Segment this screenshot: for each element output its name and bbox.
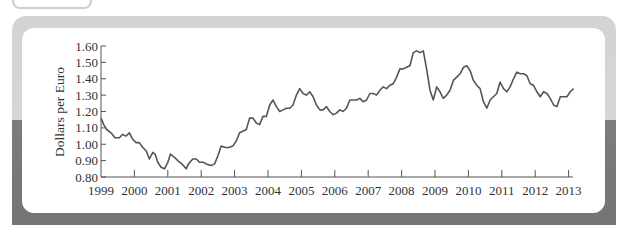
y-tick-label: 1.30 — [75, 88, 98, 103]
y-tick-label: 1.00 — [75, 137, 98, 152]
x-tick-label: 2009 — [422, 183, 448, 198]
y-tick-label: 1.20 — [75, 104, 98, 119]
x-tick-label: 2001 — [155, 183, 181, 198]
x-tick-label: 2004 — [255, 183, 282, 198]
x-tick-label: 2000 — [121, 183, 147, 198]
y-tick-label: 1.60 — [75, 39, 98, 54]
x-tick-label: 2005 — [288, 183, 314, 198]
series-line-dollars-per-euro — [101, 51, 574, 169]
x-tick-label: 2007 — [355, 183, 382, 198]
y-tick-label: 1.10 — [75, 120, 98, 135]
x-tick-label: 2008 — [389, 183, 415, 198]
y-tick-label: 1.50 — [75, 55, 98, 70]
x-tick-label: 2010 — [455, 183, 481, 198]
y-axis-title: Dollars per Euro — [52, 67, 67, 157]
y-tick-label: 0.90 — [75, 153, 98, 168]
x-tick-label: 2012 — [522, 183, 548, 198]
line-chart: Dollars per Euro 0.800.901.001.101.201.3… — [0, 0, 627, 235]
x-tick-label: 2013 — [556, 183, 582, 198]
x-tick-label: 2002 — [188, 183, 214, 198]
x-tick-label: 2006 — [322, 183, 349, 198]
x-tick-label: 2003 — [222, 183, 248, 198]
y-axis: 0.800.901.001.101.201.301.401.501.60 — [75, 39, 106, 185]
x-tick-label: 2011 — [489, 183, 515, 198]
x-axis: 1999200020012002200320042005200620072008… — [88, 170, 582, 198]
y-tick-label: 1.40 — [75, 71, 98, 86]
x-tick-label: 1999 — [88, 183, 114, 198]
